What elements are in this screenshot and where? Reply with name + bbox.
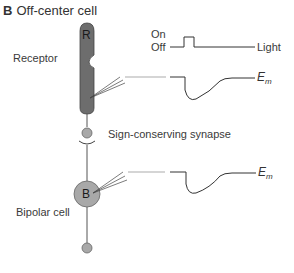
receptor-electrode	[90, 77, 166, 98]
receptor-terminal	[82, 128, 92, 138]
light-stimulus-trace	[170, 37, 255, 47]
synapse-cleft	[79, 141, 95, 144]
off-label: Off	[151, 41, 165, 53]
bipolar-terminal	[82, 243, 92, 253]
receptor-em-trace	[170, 77, 255, 100]
bipolar-em-trace	[170, 172, 256, 193]
receptor-em-label: Em	[257, 70, 272, 86]
bipolar-glyph: B	[82, 187, 90, 201]
synapse-label: Sign-conserving synapse	[108, 128, 231, 140]
on-label: On	[151, 28, 166, 40]
light-label: Light	[257, 41, 281, 53]
bipolar-em-label: Em	[258, 165, 273, 181]
receptor-label: Receptor	[13, 52, 58, 64]
bipolar-electrode	[93, 172, 165, 193]
receptor-glyph: R	[82, 28, 91, 42]
bipolar-label: Bipolar cell	[16, 206, 70, 218]
